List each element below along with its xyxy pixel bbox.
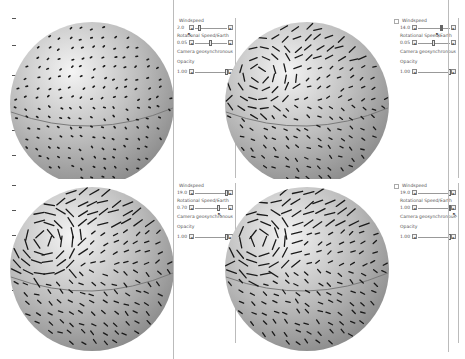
opacity-label: Opacity [400,59,417,64]
globe-canvas[interactable] [0,0,175,179]
slider-decrement-button[interactable]: ◂ [189,40,194,45]
globe-canvas[interactable] [225,175,400,354]
globe-canvas[interactable] [0,175,175,354]
windspeed-value: 19.0 [177,190,187,195]
slider-track[interactable] [418,193,450,194]
slider-track[interactable] [418,208,450,209]
mouse-cursor-icon: ↖ [452,211,458,219]
panel-divider-left [173,0,174,359]
slider-decrement-button[interactable]: ◂ [412,40,417,45]
view-bottom-left: Windspeed19.0◂▸Rotational Speed/Earth0.7… [0,175,232,354]
slider-track[interactable] [195,208,227,209]
slider-increment-button[interactable]: ▸ [451,40,456,45]
slider-thumb[interactable] [432,40,435,46]
windspeed-slider[interactable]: ◂▸ [412,190,456,196]
rotation-label: Rotational Speed/Earth [177,198,229,203]
rotation-slider[interactable]: ◂▸ [412,205,456,211]
mouse-cursor-icon: ↖ [217,211,223,219]
globe-icon [225,175,400,354]
rotation-slider[interactable]: ◂▸ [412,40,456,46]
panel-divider-right [448,0,449,352]
windspeed-label: Windspeed [402,183,427,188]
rotation-label: Rotational Speed/Earth [400,33,452,38]
globe-icon [225,0,400,179]
rotation-value: 1.00 [400,205,410,210]
slider-track[interactable] [418,28,450,29]
slider-track[interactable] [418,72,450,73]
globe-icon [0,175,175,354]
slider-decrement-button[interactable]: ◂ [189,69,194,74]
slider-increment-button[interactable]: ▸ [451,234,456,239]
slider-decrement-button[interactable]: ◂ [412,234,417,239]
slider-track[interactable] [195,72,227,73]
rotation-label: Rotational Speed/Earth [400,198,452,203]
windspeed-value: 19.0 [400,190,410,195]
slider-increment-button[interactable]: ▸ [451,69,456,74]
control-panel: Windspeed14.0◂▸Rotational Speed/Earth0.0… [398,18,459,178]
slider-increment-button[interactable]: ▸ [451,205,456,210]
windspeed-label: Windspeed [402,18,427,23]
windspeed-label: Windspeed [179,183,204,188]
windspeed-label: Windspeed [179,18,204,23]
opacity-value: 1.00 [177,234,187,239]
opacity-label: Opacity [400,224,417,229]
windspeed-value: 2.0 [177,25,184,30]
rotation-label: Rotational Speed/Earth [177,33,229,38]
mouse-cursor-icon: ↖ [187,31,193,39]
slider-increment-button[interactable]: ▸ [451,25,456,30]
slider-decrement-button[interactable]: ◂ [189,205,194,210]
view-top-left: Windspeed2.0◂▸Rotational Speed/Earth0.05… [0,0,232,179]
slider-decrement-button[interactable]: ◂ [189,234,194,239]
view-top-right: Windspeed14.0◂▸Rotational Speed/Earth0.0… [225,0,457,179]
view-bottom-right: Windspeed19.0◂▸Rotational Speed/Earth1.0… [225,175,457,354]
rotation-value: 0.05 [400,40,410,45]
rotation-value: 0.05 [177,40,187,45]
slider-thumb[interactable] [209,40,212,46]
slider-decrement-button[interactable]: ◂ [412,25,417,30]
slider-decrement-button[interactable]: ◂ [189,25,194,30]
control-panel: Windspeed19.0◂▸Rotational Speed/Earth1.0… [398,183,459,343]
opacity-value: 1.00 [400,69,410,74]
globe-canvas[interactable] [225,0,400,179]
slider-track[interactable] [195,193,227,194]
opacity-slider[interactable]: ◂▸ [412,69,456,75]
rotation-value: 0.70 [177,205,187,210]
opacity-value: 1.00 [177,69,187,74]
windspeed-value: 14.0 [400,25,410,30]
slider-track[interactable] [195,237,227,238]
slider-increment-button[interactable]: ▸ [451,190,456,195]
opacity-value: 1.00 [400,234,410,239]
slider-track[interactable] [418,237,450,238]
panel-checkbox[interactable] [394,184,399,189]
mouse-cursor-icon: ↖ [435,31,441,39]
slider-decrement-button[interactable]: ◂ [412,205,417,210]
slider-decrement-button[interactable]: ◂ [412,190,417,195]
slider-decrement-button[interactable]: ◂ [189,190,194,195]
slider-thumb[interactable] [198,25,201,31]
panel-checkbox[interactable] [394,19,399,24]
opacity-label: Opacity [177,224,194,229]
opacity-slider[interactable]: ◂▸ [412,234,456,240]
globe-icon [0,0,175,179]
slider-decrement-button[interactable]: ◂ [412,69,417,74]
opacity-label: Opacity [177,59,194,64]
windspeed-slider[interactable]: ◂▸ [412,25,456,31]
